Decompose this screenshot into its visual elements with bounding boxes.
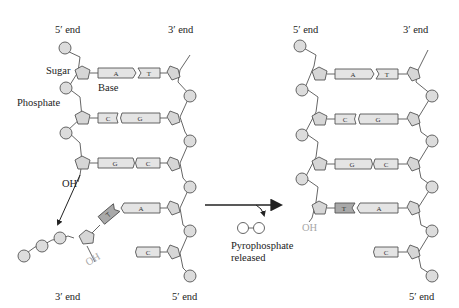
phosphate-circle <box>36 240 48 252</box>
base-letter: T <box>342 205 347 213</box>
incoming-oh-label: OH <box>84 250 103 267</box>
phosphate-circle <box>60 82 72 94</box>
phosphate-circle <box>184 181 196 193</box>
phosphate-label: Phosphate <box>17 97 61 108</box>
right-strand-backbone <box>178 55 190 275</box>
left-panel: 5′ end 3′ end Sugar Base Phosphate OH 3′… <box>17 24 198 302</box>
sugar-pentagon <box>312 112 327 125</box>
phosphate-circle <box>426 181 438 193</box>
reaction-arrow-group: Pyrophosphate released <box>205 205 294 263</box>
base-letter: G <box>112 160 117 168</box>
right-panel: 5′ end 3′ end 5′ end OH <box>293 24 438 302</box>
base-letter: C <box>343 116 348 124</box>
base-letter: A <box>113 70 118 78</box>
right-3prime-top-label: 3′ end <box>403 24 429 35</box>
oh-label: OH <box>302 222 318 233</box>
base-letter: C <box>384 249 389 257</box>
sugar-pentagon <box>407 245 420 259</box>
sugar-pentagon <box>407 112 420 126</box>
phosphate-circle <box>184 270 196 282</box>
phosphate-circle <box>60 127 72 139</box>
sugar-pentagon <box>167 201 180 215</box>
phosphate-circle <box>296 129 308 141</box>
sugar-pentagon <box>167 157 180 171</box>
released-label: released <box>231 252 266 263</box>
base-letter: G <box>375 116 380 124</box>
phosphate-circle <box>18 250 30 262</box>
base-label: Base <box>98 82 119 93</box>
base-letter: T <box>147 70 152 78</box>
dna-replication-diagram: 5′ end 3′ end Sugar Base Phosphate OH 3′… <box>0 0 459 308</box>
phosphate-circle <box>426 270 438 282</box>
release-arrow <box>256 205 264 215</box>
base-letter: A <box>138 205 143 213</box>
sugar-pentagon <box>407 201 420 215</box>
phosphate-circle <box>184 135 196 147</box>
sugar-pentagon <box>75 111 90 124</box>
phosphate-circle <box>426 225 438 237</box>
sugar-pentagon <box>312 157 327 170</box>
phosphate-circle <box>59 42 71 54</box>
sugar-pentagon <box>79 230 94 244</box>
sugar-pentagon <box>75 156 90 169</box>
pyrophosphate-icon <box>238 223 265 234</box>
right-5prime-top-label: 5′ end <box>293 24 319 35</box>
sugar-pentagon <box>312 201 327 214</box>
right-5prime-bottom-label: 5′ end <box>409 291 435 302</box>
phosphate-circle <box>54 232 66 244</box>
sugar-pentagon <box>167 66 180 80</box>
base-letter: C <box>106 115 111 123</box>
left-5prime-top-label: 5′ end <box>55 24 81 35</box>
sugar-label: Sugar <box>46 65 71 76</box>
base-letter: C <box>146 160 151 168</box>
pyrophosphate-label: Pyrophosphate <box>231 240 294 251</box>
phosphate-circle <box>426 135 438 147</box>
left-3prime-top-label: 3′ end <box>168 24 194 35</box>
base-letter: A <box>376 205 381 213</box>
base-letter: A <box>350 71 355 79</box>
sugar-pentagon <box>407 157 420 171</box>
phosphate-circle <box>296 84 308 96</box>
sugar-pentagon <box>167 111 180 125</box>
sugar-pentagon <box>312 67 327 80</box>
base-letter: G <box>137 115 142 123</box>
phosphate-circle <box>296 173 308 185</box>
base-letter: C <box>384 161 389 169</box>
phosphate-circle <box>184 90 196 102</box>
left-5prime-bottom-label: 5′ end <box>172 291 198 302</box>
sugar-pentagon <box>167 245 180 259</box>
phosphate-circle <box>426 90 438 102</box>
base-letter: C <box>146 249 151 257</box>
phosphate-circle <box>294 40 306 52</box>
oh-label: OH <box>62 178 78 189</box>
sugar-pentagon <box>75 66 90 79</box>
phosphate-circle <box>184 225 196 237</box>
base-letter: T <box>385 71 390 79</box>
left-3prime-bottom-label: 3′ end <box>55 291 81 302</box>
base-letter: G <box>349 161 354 169</box>
